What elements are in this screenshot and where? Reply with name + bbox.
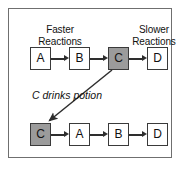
node-after-3: B bbox=[108, 123, 129, 146]
node-before-2: B bbox=[69, 47, 90, 70]
connector-after-2-3 bbox=[90, 131, 108, 138]
connector-shaft bbox=[90, 58, 103, 60]
node-before-1: A bbox=[30, 47, 51, 70]
heading-slower-line1: Slower bbox=[119, 24, 184, 36]
heading-faster-reactions: Faster Reactions bbox=[25, 24, 95, 47]
connector-after-3-4 bbox=[129, 131, 147, 138]
node-after-1-highlighted: C bbox=[30, 123, 51, 146]
connector-shaft bbox=[51, 134, 64, 136]
connector-shaft bbox=[51, 58, 64, 60]
heading-slower-reactions: Slower Reactions bbox=[119, 24, 184, 47]
node-before-3-highlighted: C bbox=[108, 47, 129, 70]
diagram-panel: Faster Reactions Slower Reactions A B C … bbox=[8, 8, 172, 158]
connector-shaft bbox=[129, 134, 142, 136]
connector-before-1-2 bbox=[51, 55, 69, 62]
heading-slower-line2: Reactions bbox=[119, 36, 184, 48]
heading-faster-line1: Faster bbox=[25, 24, 95, 36]
node-after-2: A bbox=[69, 123, 90, 146]
connector-shaft bbox=[129, 58, 142, 60]
node-before-4: D bbox=[147, 47, 168, 70]
connector-after-1-2 bbox=[51, 131, 69, 138]
connector-before-3-4 bbox=[129, 55, 147, 62]
initiative-order-diagram: Faster Reactions Slower Reactions A B C … bbox=[0, 0, 184, 169]
connector-shaft bbox=[90, 134, 103, 136]
transition-caption: C drinks potion bbox=[32, 89, 102, 101]
connector-before-2-3 bbox=[90, 55, 108, 62]
node-after-4: D bbox=[147, 123, 168, 146]
heading-faster-line2: Reactions bbox=[25, 36, 95, 48]
